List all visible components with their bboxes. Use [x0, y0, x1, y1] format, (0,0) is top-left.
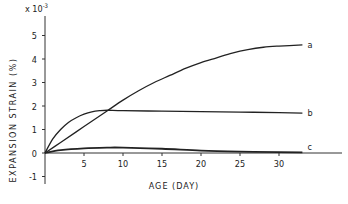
x-tick-label: 15 — [157, 159, 167, 169]
y-multiplier-label: x 10-3 — [25, 2, 48, 14]
y-tick-label: -1 — [29, 172, 37, 182]
series-label-a: a — [307, 40, 312, 50]
y-tick-label: 3 — [32, 78, 37, 88]
x-tick-label: 10 — [118, 159, 128, 169]
x-tick-label: 30 — [274, 159, 284, 169]
series-line-c — [45, 147, 302, 153]
expansion-strain-chart: x 10-3 EXPANSION STRAIN (%) -1012345 510… — [0, 0, 348, 204]
y-tick-label: 4 — [32, 55, 37, 65]
series-line-a — [45, 45, 302, 153]
x-tick-label: 25 — [235, 159, 245, 169]
series-label-c: c — [307, 142, 311, 152]
x-tick-label: 20 — [196, 159, 206, 169]
series-lines: abc — [45, 40, 313, 153]
y-tick-label: 1 — [32, 125, 37, 135]
series-line-b — [45, 110, 302, 153]
y-axis-label: EXPANSION STRAIN (%) — [8, 58, 18, 183]
x-ticks: 51015202530 — [81, 153, 284, 169]
y-tick-label: 2 — [32, 102, 37, 112]
y-ticks: -1012345 — [29, 31, 45, 182]
y-tick-label: 5 — [32, 31, 37, 41]
x-tick-label: 5 — [81, 159, 86, 169]
x-axis-label: AGE (DAY) — [149, 181, 200, 191]
series-label-b: b — [307, 108, 312, 118]
y-tick-label: 0 — [32, 149, 37, 159]
